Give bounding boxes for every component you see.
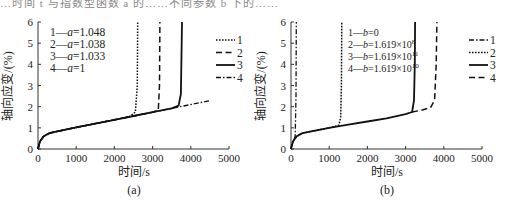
y-axis-title: 轴向应变/(%) [253, 51, 268, 120]
x-axis: 010002000300040005000 [35, 146, 240, 164]
annotation-line: 3—a=1.033 [50, 50, 106, 62]
legend-label: 4 [237, 72, 243, 84]
y-tick-label: 4 [281, 58, 287, 70]
x-tick-label: 4000 [433, 152, 456, 164]
x-tick-label: 3000 [395, 152, 418, 164]
x-tick-label: 5000 [218, 152, 241, 164]
x-axis: 010002000300040005000 [288, 146, 493, 164]
annotation-line: 2—a=1.038 [50, 38, 106, 50]
legend-label: 2 [237, 47, 243, 59]
y-tick-label: 2 [281, 101, 287, 113]
y-axis: 0123456 [28, 16, 42, 155]
y-axis: 0123456 [281, 16, 295, 155]
y-tick-label: 1 [281, 122, 287, 134]
y-tick-label: 0 [28, 143, 34, 155]
series-line-4 [38, 101, 210, 149]
y-tick-label: 2 [28, 101, 34, 113]
annotation-line: 1—b=0 [348, 27, 379, 38]
parameter-annotation: 1—b=02—b=1.619×1083—b=1.619×10114—b=1.61… [348, 27, 419, 74]
legend-label: 4 [490, 72, 496, 84]
y-tick-label: 5 [28, 37, 34, 49]
y-tick-label: 4 [28, 58, 34, 70]
legend: 1234 [469, 34, 496, 84]
x-tick-label: 0 [35, 152, 41, 164]
annotation-line: 1—a=1.048 [50, 26, 106, 38]
x-tick-label: 4000 [180, 152, 203, 164]
y-tick-label: 5 [281, 37, 287, 49]
x-axis-title: 时间/s [371, 165, 403, 179]
legend-label: 2 [490, 47, 496, 59]
annotation-line: 2—b=1.619×108 [348, 38, 416, 50]
chart-panel-b: 0123456 010002000300040005000 轴向应变/(%) 时… [253, 16, 496, 197]
x-axis-title: 时间/s [118, 165, 150, 179]
y-tick-label: 0 [281, 143, 287, 155]
x-tick-label: 0 [288, 152, 294, 164]
panel-label-a: (a) [127, 183, 140, 197]
x-tick-label: 5000 [471, 152, 494, 164]
y-axis-title: 轴向应变/(%) [0, 51, 15, 120]
x-tick-label: 3000 [142, 152, 165, 164]
legend-label: 3 [490, 59, 496, 71]
chart-panel-a: 0123456 010002000300040005000 轴向应变/(%) 时… [0, 16, 243, 197]
annotation-line: 3—b=1.619×1011 [348, 50, 419, 62]
x-tick-label: 1000 [65, 152, 88, 164]
x-tick-label: 2000 [356, 152, 379, 164]
y-tick-label: 6 [28, 16, 34, 28]
legend-label: 1 [237, 34, 243, 46]
legend: 1234 [216, 34, 243, 84]
x-tick-label: 2000 [103, 152, 126, 164]
legend-label: 3 [237, 59, 243, 71]
parameter-annotation: 1—a=1.0482—a=1.0383—a=1.0334—a=1 [50, 26, 106, 74]
y-tick-label: 6 [281, 16, 287, 28]
legend-label: 1 [490, 34, 496, 46]
y-tick-label: 1 [28, 122, 34, 134]
x-tick-label: 1000 [318, 152, 341, 164]
panel-label-b: (b) [380, 183, 394, 197]
annotation-line: 4—a=1 [50, 62, 85, 74]
annotation-line: 4—b=1.619×1010 [348, 62, 419, 74]
y-tick-label: 3 [28, 80, 34, 92]
y-tick-label: 3 [281, 80, 287, 92]
